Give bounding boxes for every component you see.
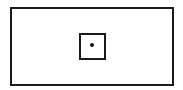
center-dot (90, 43, 94, 47)
